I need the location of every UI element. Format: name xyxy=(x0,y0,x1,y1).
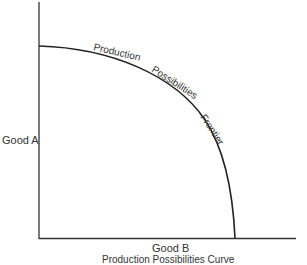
curve-label-possibilities: Possibilities xyxy=(150,63,200,101)
ppf-curve xyxy=(39,46,235,238)
curve-label-frontier: Frontier xyxy=(198,112,226,147)
x-axis-label: Good B xyxy=(152,242,189,254)
y-axis-label: Good A xyxy=(2,134,39,146)
caption: Production Possibilities Curve xyxy=(102,254,234,265)
